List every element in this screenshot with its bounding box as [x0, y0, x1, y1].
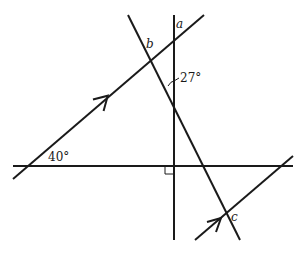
- angle-label-40: 40°: [48, 151, 69, 163]
- lower-parallel-line: [195, 156, 293, 240]
- label-a: a: [176, 18, 183, 30]
- upper-parallel-line: [13, 15, 204, 179]
- geometry-diagram: a b c 27° 40°: [0, 0, 305, 255]
- transversal-line: [128, 15, 240, 240]
- label-c: c: [231, 211, 238, 223]
- angle-label-27: 27°: [180, 72, 201, 84]
- label-b: b: [146, 38, 154, 50]
- right-angle-mark-icon: [165, 166, 174, 174]
